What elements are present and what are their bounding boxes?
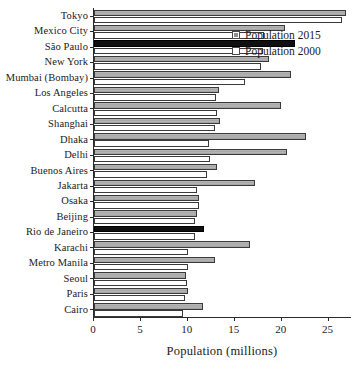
bar-population-2000 bbox=[94, 94, 216, 100]
y-axis-tick bbox=[90, 263, 93, 264]
population-bar-chart: CairoParisSeoulMetro ManilaKarachiRio de… bbox=[0, 0, 364, 371]
category-label: Metro Manila bbox=[0, 255, 93, 270]
bar-population-2000 bbox=[94, 125, 215, 131]
y-axis-tick bbox=[90, 108, 93, 109]
y-axis-tick bbox=[90, 278, 93, 279]
x-axis-tick-label: 10 bbox=[167, 323, 207, 335]
chart-row: Calcutta bbox=[93, 101, 351, 116]
bar-population-2015 bbox=[94, 133, 306, 139]
bar-population-2000 bbox=[94, 110, 217, 116]
bar-population-2000 bbox=[94, 17, 342, 23]
bar-population-2000 bbox=[94, 233, 195, 239]
chart-row: Cairo bbox=[93, 302, 351, 317]
bar-population-2000 bbox=[94, 187, 197, 193]
x-axis-title: Population (millions) bbox=[93, 344, 351, 359]
category-label: Delhi bbox=[0, 147, 93, 162]
chart-row: Mumbai (Bombay) bbox=[93, 70, 351, 85]
x-axis-tick-label: 20 bbox=[261, 323, 301, 335]
category-label: Shanghai bbox=[0, 116, 93, 131]
category-label: Mumbai (Bombay) bbox=[0, 70, 93, 85]
x-axis-tick bbox=[93, 317, 94, 321]
category-label: Tokyo bbox=[0, 8, 93, 23]
category-label: Calcutta bbox=[0, 101, 93, 116]
category-label: São Paulo bbox=[0, 39, 93, 54]
category-label: Los Angeles bbox=[0, 85, 93, 100]
bar-population-2015 bbox=[94, 241, 250, 247]
legend-item-population-2015: Population 2015 bbox=[232, 27, 321, 43]
chart-row: Tokyo bbox=[93, 8, 351, 23]
bar-population-2015 bbox=[94, 288, 188, 294]
y-axis-tick bbox=[90, 31, 93, 32]
bar-population-2015 bbox=[94, 87, 219, 93]
y-axis-tick bbox=[90, 170, 93, 171]
chart-legend: Population 2015 Population 2000 bbox=[232, 27, 321, 59]
x-axis-tick-label: 5 bbox=[120, 323, 160, 335]
category-label: Rio de Janeiro bbox=[0, 224, 93, 239]
chart-row: Dhaka bbox=[93, 132, 351, 147]
category-label: Paris bbox=[0, 286, 93, 301]
y-axis-tick bbox=[90, 155, 93, 156]
bar-population-2015 bbox=[94, 71, 291, 77]
y-axis-tick bbox=[90, 16, 93, 17]
bar-population-2015 bbox=[94, 226, 204, 232]
chart-row: Paris bbox=[93, 286, 351, 301]
bar-population-2015 bbox=[94, 210, 197, 216]
y-axis-tick bbox=[90, 186, 93, 187]
bar-population-2015 bbox=[94, 10, 346, 16]
bar-population-2000 bbox=[94, 264, 188, 270]
bar-population-2000 bbox=[94, 171, 207, 177]
chart-row: Metro Manila bbox=[93, 255, 351, 270]
category-label: Buenos Aires bbox=[0, 163, 93, 178]
chart-row: Shanghai bbox=[93, 116, 351, 131]
bar-population-2015 bbox=[94, 118, 220, 124]
legend-label-2015: Population 2015 bbox=[245, 27, 321, 43]
bar-population-2000 bbox=[94, 156, 210, 162]
y-axis-tick bbox=[90, 232, 93, 233]
legend-label-2000: Population 2000 bbox=[245, 43, 321, 59]
bar-population-2000 bbox=[94, 218, 195, 224]
y-axis-tick bbox=[90, 93, 93, 94]
chart-row: Jakarta bbox=[93, 178, 351, 193]
bar-population-2000 bbox=[94, 202, 199, 208]
x-axis-line bbox=[93, 317, 351, 318]
y-axis-tick bbox=[90, 78, 93, 79]
bar-population-2000 bbox=[94, 140, 209, 146]
x-axis-tick bbox=[328, 317, 329, 321]
y-axis-tick bbox=[90, 217, 93, 218]
bar-population-2015 bbox=[94, 195, 199, 201]
category-label: Cairo bbox=[0, 302, 93, 317]
y-axis-tick bbox=[90, 247, 93, 248]
bar-population-2000 bbox=[94, 79, 245, 85]
chart-row: Beijing bbox=[93, 209, 351, 224]
y-axis-tick bbox=[90, 47, 93, 48]
bar-population-2000 bbox=[94, 63, 261, 69]
y-axis-tick bbox=[90, 139, 93, 140]
y-axis-tick bbox=[90, 309, 93, 310]
y-axis-tick bbox=[90, 294, 93, 295]
bar-population-2015 bbox=[94, 303, 203, 309]
bar-population-2000 bbox=[94, 310, 183, 316]
bar-population-2000 bbox=[94, 295, 185, 301]
x-axis-tick bbox=[187, 317, 188, 321]
chart-row: Buenos Aires bbox=[93, 163, 351, 178]
category-label: Beijing bbox=[0, 209, 93, 224]
y-axis-tick bbox=[90, 62, 93, 63]
bar-population-2015 bbox=[94, 257, 215, 263]
legend-swatch-2000-icon bbox=[232, 47, 240, 55]
legend-item-population-2000: Population 2000 bbox=[232, 43, 321, 59]
x-axis-tick bbox=[281, 317, 282, 321]
category-label: Karachi bbox=[0, 240, 93, 255]
category-label: Jakarta bbox=[0, 178, 93, 193]
y-axis-tick bbox=[90, 201, 93, 202]
x-axis-tick bbox=[234, 317, 235, 321]
category-label: New York bbox=[0, 54, 93, 69]
bar-population-2015 bbox=[94, 102, 281, 108]
bar-population-2000 bbox=[94, 249, 188, 255]
bar-population-2015 bbox=[94, 149, 287, 155]
bar-population-2015 bbox=[94, 180, 255, 186]
x-axis-tick-label: 15 bbox=[214, 323, 254, 335]
x-axis-tick-label: 25 bbox=[308, 323, 348, 335]
chart-row: Delhi bbox=[93, 147, 351, 162]
x-axis-tick-label: 0 bbox=[73, 323, 113, 335]
x-axis-tick bbox=[140, 317, 141, 321]
